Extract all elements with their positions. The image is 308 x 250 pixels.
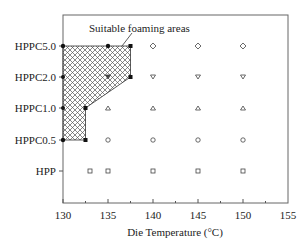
series-hppc1-triangles-up xyxy=(106,106,246,110)
x-tick-label: 130 xyxy=(55,209,72,221)
x-tick-label: 155 xyxy=(280,209,297,221)
x-axis-title: Die Temperature (°C) xyxy=(127,226,223,239)
y-tick-label: HPPC2.0 xyxy=(15,71,57,83)
y-tick-label: HPP xyxy=(36,165,56,177)
x-axis xyxy=(63,199,266,203)
series-hppc5-diamonds xyxy=(150,43,246,49)
suitable-foaming-region xyxy=(63,46,131,140)
x-tick-label: 150 xyxy=(235,209,252,221)
series-hppc05-circles xyxy=(106,138,245,142)
x-tick-label: 145 xyxy=(190,209,207,221)
series-hpp-squares xyxy=(88,169,245,173)
y-tick-label: HPPC0.5 xyxy=(15,134,57,146)
annotation-text: Suitable foaming areas xyxy=(89,22,190,34)
y-tick-label: HPPC1.0 xyxy=(15,102,57,114)
y-tick-label: HPPC5.0 xyxy=(15,40,57,52)
plot-frame xyxy=(63,15,288,203)
x-tick-label: 140 xyxy=(145,209,162,221)
foaming-area-chart: Suitable foaming areas HPPC5.0 HPPC2.0 H… xyxy=(0,0,308,250)
x-tick-label: 135 xyxy=(100,209,117,221)
